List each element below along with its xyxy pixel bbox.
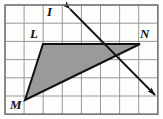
geometry-figure: I L N M bbox=[0, 0, 163, 119]
point-label-L: L bbox=[30, 27, 38, 40]
point-label-N: N bbox=[140, 27, 149, 40]
diagram-canvas bbox=[0, 0, 163, 119]
point-label-M: M bbox=[10, 98, 22, 111]
shaded-quadrilateral bbox=[25, 44, 140, 100]
point-label-I: I bbox=[47, 5, 52, 18]
